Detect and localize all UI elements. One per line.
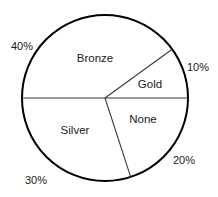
- slice-label-silver: Silver: [61, 125, 90, 137]
- percent-label-bronze: 40%: [11, 41, 33, 52]
- percent-label-gold: 10%: [187, 62, 209, 73]
- slice-label-bronze: Bronze: [77, 53, 113, 65]
- pie-chart-graphic: [0, 0, 218, 197]
- percent-label-silver: 30%: [25, 175, 47, 186]
- slice-label-none: None: [129, 114, 157, 126]
- pie-chart-figure: Bronze Gold None Silver 40% 10% 20% 30%: [0, 0, 218, 197]
- slice-label-gold: Gold: [138, 79, 162, 91]
- percent-label-none: 20%: [173, 155, 195, 166]
